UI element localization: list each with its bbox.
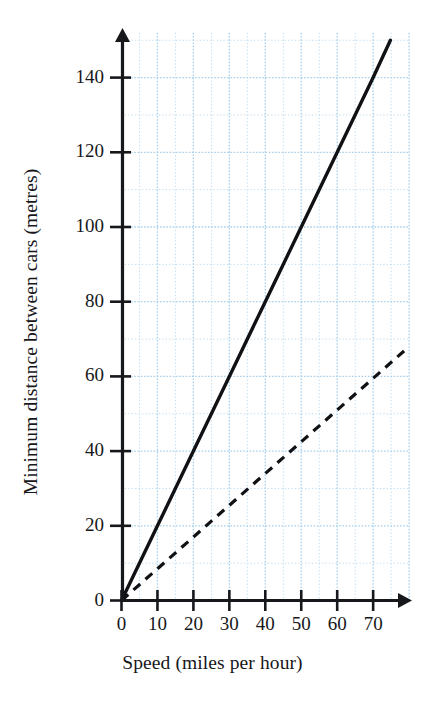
x-tick-label: 50 [281,614,321,634]
x-tick-label: 0 [102,614,142,634]
x-tick-label: 30 [209,614,249,634]
series-solid-line [122,40,391,600]
y-axis-arrowhead [115,28,130,42]
x-tick-label: 70 [353,614,393,634]
y-tick-label: 20 [58,515,104,535]
grid-major-vertical [122,33,410,601]
x-tick-label: 60 [317,614,357,634]
graph-figure: 020406080100120140 010203040506070 Minim… [0,0,425,714]
x-tick-label: 40 [245,614,285,634]
y-tick-label: 100 [58,216,104,236]
series-dashed-line [122,347,410,601]
y-tick-label: 60 [58,365,104,385]
y-tick-label: 140 [58,67,104,87]
y-tick-label: 80 [58,291,104,311]
y-tick-label: 0 [58,590,104,610]
y-tick-label: 40 [58,440,104,460]
y-axis-title: Minimum distance between cars (metres) [14,62,48,602]
x-axis-arrowhead [398,593,412,608]
y-tick-label: 120 [58,141,104,161]
y-axis-ticks [110,78,131,601]
x-tick-label: 10 [137,614,177,634]
x-tick-label: 20 [173,614,213,634]
x-axis-title: Speed (miles per hour) [0,648,425,678]
